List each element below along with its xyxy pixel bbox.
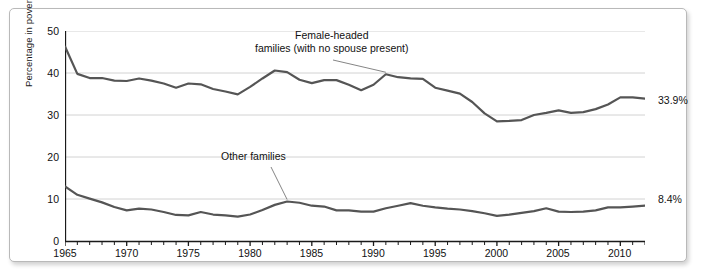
y-tick-label: 30	[33, 110, 59, 121]
x-tick-label: 1975	[168, 248, 208, 259]
y-tick-label: 20	[33, 152, 59, 163]
chart-screenshot: Percentage in poverty 50 40 30 20 10 0 1…	[0, 0, 706, 275]
end-label-other-families: 8.4%	[658, 193, 682, 205]
annotation-line-1: Female-headed	[295, 29, 369, 41]
y-tick-label: 50	[33, 26, 59, 37]
y-tick-label: 0	[33, 236, 59, 247]
y-tick-label: 10	[33, 194, 59, 205]
x-tick-label: 1985	[292, 248, 332, 259]
chart-canvas	[65, 31, 645, 246]
x-tick-label: 1990	[353, 248, 393, 259]
y-tick-label: 40	[33, 68, 59, 79]
x-tick-label: 2000	[476, 248, 516, 259]
x-tick-label: 1965	[45, 248, 85, 259]
annotation-line-2: families (with no spouse present)	[255, 42, 409, 54]
plot-area: Percentage in poverty 50 40 30 20 10 0 1…	[65, 31, 645, 241]
x-tick-label: 1995	[415, 248, 455, 259]
other-families-annotation: Other families	[221, 150, 286, 163]
annotation-line-1: Other families	[221, 150, 286, 162]
female-headed-annotation: Female-headed families (with no spouse p…	[255, 29, 409, 55]
end-label-female-headed: 33.9%	[658, 94, 688, 106]
x-tick-label: 1970	[107, 248, 147, 259]
x-tick-label: 2010	[600, 248, 640, 259]
x-tick-label: 1980	[230, 248, 270, 259]
x-tick-label: 2005	[538, 248, 578, 259]
chart-frame: Percentage in poverty 50 40 30 20 10 0 1…	[9, 8, 687, 262]
